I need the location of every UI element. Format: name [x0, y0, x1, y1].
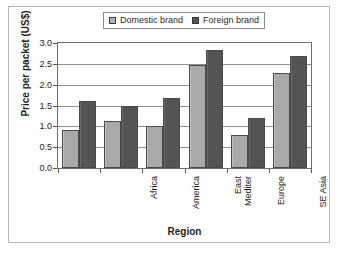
bar-domestic [231, 135, 248, 168]
bar-domestic [273, 73, 290, 168]
legend-swatch-domestic-icon [109, 17, 116, 24]
y-tick-label: 2.0 [26, 80, 52, 90]
y-tick-label: 1.0 [26, 121, 52, 131]
bar-group [189, 43, 223, 168]
bar-group [231, 43, 265, 168]
bar-group [104, 43, 138, 168]
bar-group [273, 43, 307, 168]
bar-foreign [290, 56, 307, 169]
x-tick-label: SE Asia [318, 176, 328, 236]
y-tick-label: 1.5 [26, 101, 52, 111]
y-tick-label: 0.5 [26, 142, 52, 152]
bar-foreign [206, 50, 223, 168]
bar-foreign [121, 106, 138, 168]
x-tick-mark [227, 169, 228, 173]
bar-group [62, 43, 96, 168]
x-tick-mark [100, 169, 101, 173]
legend-swatch-foreign-icon [192, 17, 199, 24]
bar-foreign [79, 101, 96, 169]
bar-group [146, 43, 180, 168]
x-axis-title: Region [57, 226, 312, 237]
legend-item-domestic: Domestic brand [109, 16, 183, 25]
x-tick-mark [311, 169, 312, 173]
bar-foreign [248, 118, 265, 168]
bar-groups [58, 43, 311, 168]
legend-item-foreign: Foreign brand [192, 16, 259, 25]
bar-foreign [163, 98, 180, 168]
bar-domestic [146, 126, 163, 169]
bar-chart-figure: Domestic brand Foreign brand Price per p… [0, 0, 342, 258]
x-tick-mark [185, 169, 186, 173]
x-tick-mark [58, 169, 59, 173]
bar-domestic [104, 121, 121, 168]
x-tick-mark [142, 169, 143, 173]
y-tick-label: 0.0 [26, 163, 52, 173]
bar-domestic [189, 65, 206, 168]
legend-label-domestic: Domestic brand [120, 16, 183, 25]
chart-legend: Domestic brand Foreign brand [103, 12, 265, 29]
bar-domestic [62, 130, 79, 168]
legend-label-foreign: Foreign brand [203, 16, 259, 25]
y-tick-label: 3.0 [26, 38, 52, 48]
y-tick-label: 2.5 [26, 59, 52, 69]
x-tick-mark [269, 169, 270, 173]
